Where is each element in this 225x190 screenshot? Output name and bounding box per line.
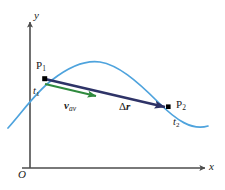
vector-label-delta-r-base: r <box>126 100 130 112</box>
physics-vector-diagram: y x O P1 t1 P2 t2 vav Δr <box>0 0 225 190</box>
vector-label-v-av-subscript: av <box>69 104 76 113</box>
point-label-p2: P2 <box>176 99 186 111</box>
point-label-p1: P1 <box>36 60 46 72</box>
vector-label-v-av: vav <box>64 100 76 112</box>
time-label-t2: t2 <box>173 117 179 129</box>
point-marker-p1 <box>42 76 47 81</box>
displacement-vector-delta-r <box>45 79 165 107</box>
point-label-p2-subscript: 2 <box>182 103 186 112</box>
time-label-t1: t1 <box>33 86 39 98</box>
time-label-t2-subscript: 2 <box>176 121 180 129</box>
time-label-t1-subscript: 1 <box>36 90 40 98</box>
point-marker-p2 <box>166 104 171 109</box>
x-axis-label: x <box>209 161 214 172</box>
point-label-p1-subscript: 1 <box>42 64 46 73</box>
y-axis-label: y <box>34 10 39 21</box>
vector-label-delta-r: Δr <box>119 101 130 112</box>
origin-label: O <box>18 169 26 180</box>
